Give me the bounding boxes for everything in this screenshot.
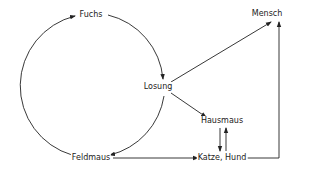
node-losung: Losung — [143, 82, 174, 92]
edge-katze-mensch — [246, 22, 279, 158]
edge-fuchs-losung — [108, 15, 163, 79]
edge-losung-mensch — [171, 22, 271, 82]
node-katze-hund: Katze, Hund — [197, 153, 248, 163]
edge-losung-feldmaus — [110, 96, 164, 155]
node-feldmaus: Feldmaus — [71, 153, 111, 163]
edge-losung-hausmaus — [171, 93, 206, 117]
node-hausmaus: Hausmaus — [200, 116, 244, 126]
node-fuchs: Fuchs — [79, 10, 104, 20]
node-mensch: Mensch — [251, 9, 284, 19]
edge-feldmaus-fuchs — [20, 16, 75, 155]
